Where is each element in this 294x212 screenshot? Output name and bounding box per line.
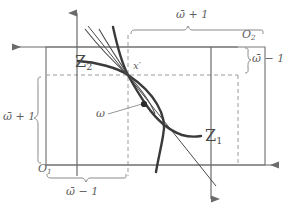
curve-z2-subscript: 2 [86,61,92,72]
curve-z1-subscript: 1 [216,135,222,146]
label-brace-bottom: ω̄ − 1 [66,185,98,198]
label-brace-right: ω̄ − 1 [252,52,284,65]
origin-1-subscript: 1 [47,167,52,176]
label-point-omega: ω [96,107,105,120]
curve-z2 [78,61,164,172]
curve-z1-letter: Z [205,126,216,145]
curve-z1 [113,27,201,137]
label-brace-left: ω̄ + 1 [3,110,35,123]
origin-2-letter: O [242,28,251,41]
label-curve-z2: Z2 [75,52,92,72]
label-curve-z1: Z1 [205,126,222,146]
brace-bottom [47,174,126,182]
math-figure: ω̄ + 1 ω̄ − 1 ω̄ + 1 ω̄ − 1 O1 O2 Z2 Z1 … [0,0,294,212]
label-brace-top: ω̄ + 1 [176,8,208,21]
origin-2-subscript: 2 [251,33,256,42]
curve-z2-letter: Z [75,52,86,71]
dashed-rectangle [46,75,238,165]
label-point-x-prime: x′ [133,60,141,71]
origin-1-letter: O [38,162,47,175]
omega-point-dot [141,101,147,107]
brace-right [245,48,251,73]
omega-leader-line [108,104,142,114]
label-origin-2: O2 [242,28,256,42]
label-origin-1: O1 [38,162,52,176]
